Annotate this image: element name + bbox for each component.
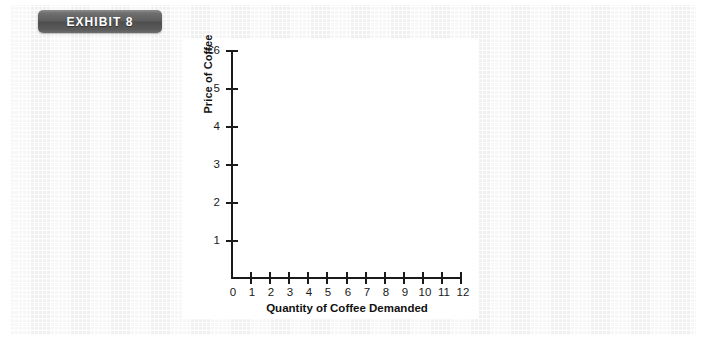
x-axis-tick-label-5: 5 <box>317 286 339 298</box>
y-axis-tick-3 <box>226 164 238 166</box>
x-axis-tick-4 <box>307 272 309 284</box>
x-axis-tick-6 <box>346 272 348 284</box>
y-axis-tick-label-2: 2 <box>180 196 220 208</box>
x-axis-tick-8 <box>384 272 386 284</box>
x-axis-title: Quantity of Coffee Demanded <box>223 302 471 314</box>
x-axis-tick-10 <box>422 272 424 284</box>
y-axis-tick-label-5: 5 <box>180 82 220 94</box>
y-axis-title: Price of Coffee <box>202 4 214 144</box>
y-axis-tick-5 <box>226 88 238 90</box>
x-axis-tick-7 <box>365 272 367 284</box>
x-axis-tick-9 <box>403 272 405 284</box>
exhibit-page: EXHIBIT 8 €6 5 4 3 2 1 0 1 2 <box>0 0 704 350</box>
y-axis-tick-2 <box>226 202 238 204</box>
y-axis-tick-label-4: 4 <box>180 120 220 132</box>
exhibit-badge: EXHIBIT 8 <box>38 10 162 33</box>
y-axis-tick-label-6: €6 <box>180 44 220 56</box>
y-axis-tick-label-3: 3 <box>180 158 220 170</box>
x-axis-tick-label-12: 12 <box>452 286 474 298</box>
chart-card: €6 5 4 3 2 1 0 1 2 3 4 5 6 <box>183 38 478 318</box>
x-axis-tick-label-9: 9 <box>394 286 416 298</box>
y-axis-tick-4 <box>226 126 238 128</box>
x-axis-tick-12 <box>460 272 462 284</box>
exhibit-badge-label: EXHIBIT 8 <box>66 15 133 29</box>
x-axis-tick-11 <box>441 272 443 284</box>
x-axis-tick-2 <box>269 272 271 284</box>
y-axis-tick-6 <box>226 50 238 52</box>
x-axis-tick-5 <box>326 272 328 284</box>
x-axis-tick-1 <box>250 272 252 284</box>
x-axis-tick-3 <box>288 272 290 284</box>
y-axis-tick-1 <box>226 240 238 242</box>
chart-plot-area: €6 5 4 3 2 1 0 1 2 3 4 5 6 <box>183 38 478 318</box>
y-axis-tick-label-1: 1 <box>180 234 220 246</box>
